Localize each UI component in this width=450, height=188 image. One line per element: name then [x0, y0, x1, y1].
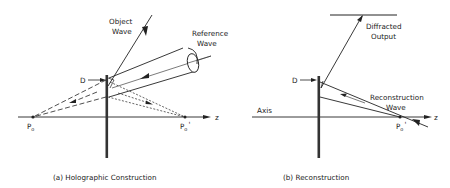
z-axis-label: z: [215, 113, 219, 122]
virtual-ray-arrow-icon: [69, 99, 76, 103]
reconstruction-inner-arrow-icon: [340, 94, 347, 98]
virtual-image-rays: [33, 80, 106, 117]
p0-label: Po: [27, 122, 34, 132]
diffracted-output-label-1: Diffracted: [366, 22, 402, 31]
reference-wave-arrow-icon: [140, 73, 149, 79]
reconstruction-wave-label-2: Wave: [386, 103, 406, 112]
reference-wave-beam: [109, 48, 211, 97]
object-wave-label-2: Wave: [112, 27, 132, 36]
panel-b-reconstruction: z Axis Diffracted Output D Reconstructio…: [252, 15, 438, 182]
diffracted-arrow-icon: [357, 15, 363, 22]
object-wave-arrow-icon: [142, 26, 148, 36]
d-label-b: D: [292, 76, 298, 85]
caption-b: (b) Reconstruction: [283, 173, 349, 182]
z-axis-b-arrow-icon: [424, 115, 432, 119]
hologram-plate: [106, 75, 109, 158]
diffracted-output-ray: [321, 15, 363, 88]
holography-diagram: z Object Wave Reference Wave D: [0, 0, 450, 188]
reconstruction-wave-rays: [320, 82, 428, 127]
p0prime-point-b: [399, 116, 402, 119]
d-label-a: D: [80, 76, 86, 85]
z-axis-label-b: z: [434, 113, 438, 122]
p0prime-label-b: Po': [396, 120, 406, 132]
p0prime-point-a: [184, 116, 187, 119]
panel-a-holographic-construction: z Object Wave Reference Wave D: [18, 15, 229, 182]
reference-wave-label-2: Wave: [197, 39, 217, 48]
p0-point: [31, 115, 34, 118]
reconstruction-wave-label-1: Reconstruction: [370, 93, 424, 102]
hologram-plate-b: [318, 76, 321, 158]
axis-label: Axis: [257, 106, 272, 115]
real-ray-arrow-icon: [146, 101, 154, 105]
real-image-rays: [108, 82, 185, 117]
diffracted-output-label-2: Output: [371, 32, 396, 41]
reference-wave-label-1: Reference: [192, 29, 229, 38]
caption-a: (a) Holographic Construction: [53, 173, 157, 182]
p0prime-label-a: Po': [180, 120, 190, 132]
object-wave-label-1: Object: [109, 17, 133, 26]
z-axis-arrow-icon: [203, 115, 211, 119]
d-pointer-b: [300, 78, 317, 82]
reconstruction-wave-arrow-icon: [412, 119, 420, 126]
